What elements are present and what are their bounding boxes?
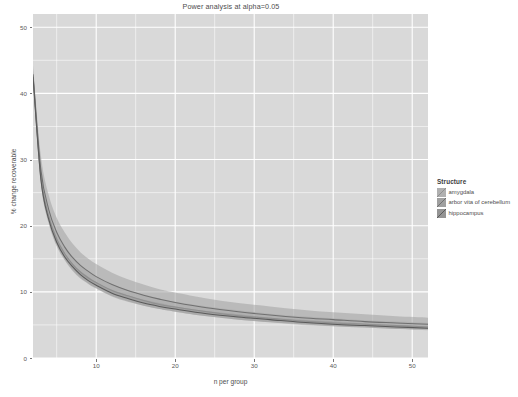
plot-panel <box>33 14 428 358</box>
legend: Structure amygdalaarbor vita of cerebell… <box>437 178 515 219</box>
ribbon-amygdala <box>33 70 428 331</box>
x-tick-label: 30 <box>244 362 264 369</box>
y-tick-mark <box>30 160 33 161</box>
ribbon-hippocampus <box>33 73 428 330</box>
x-tick-label: 10 <box>86 362 106 369</box>
legend-item-label: amygdala <box>449 189 475 196</box>
x-tick-mark <box>96 359 97 362</box>
line-hippocampus <box>33 77 428 328</box>
legend-key-swatch <box>437 209 446 218</box>
legend-item[interactable]: amygdala <box>437 187 515 197</box>
x-tick-mark <box>412 359 413 362</box>
y-tick-label: 50 <box>5 24 27 31</box>
x-tick-label: 20 <box>165 362 185 369</box>
legend-key-swatch <box>437 188 446 197</box>
plot-area <box>33 14 428 358</box>
chart-figure: Power analysis at alpha=0.05 01020304050… <box>0 0 518 397</box>
x-tick-label: 40 <box>323 362 343 369</box>
line-arbor-vita-of-cerebellum <box>33 74 428 324</box>
y-axis-title: % change recoverable <box>10 147 17 217</box>
confidence-ribbons <box>33 66 428 331</box>
y-tick-label: 20 <box>5 222 27 229</box>
x-tick-mark <box>333 359 334 362</box>
legend-key-swatch <box>437 198 446 207</box>
legend-title: Structure <box>437 178 515 185</box>
x-tick-label: 50 <box>402 362 422 369</box>
series-lines <box>33 74 428 328</box>
y-tick-mark <box>30 358 33 359</box>
legend-item[interactable]: hippocampus <box>437 208 515 218</box>
y-tick-mark <box>30 93 33 94</box>
legend-item-label: hippocampus <box>449 210 484 217</box>
y-tick-label: 10 <box>5 288 27 295</box>
x-tick-mark <box>254 359 255 362</box>
x-tick-mark <box>175 359 176 362</box>
legend-items: amygdalaarbor vita of cerebellumhippocam… <box>437 187 515 218</box>
y-tick-mark <box>30 292 33 293</box>
line-amygdala <box>33 75 428 327</box>
y-tick-label: 40 <box>5 90 27 97</box>
chart-title: Power analysis at alpha=0.05 <box>33 2 429 11</box>
y-tick-mark <box>30 27 33 28</box>
ribbon-arbor-vita-of-cerebellum <box>33 66 428 329</box>
legend-item-label: arbor vita of cerebellum <box>449 199 511 206</box>
x-axis-title: n per group <box>33 378 428 385</box>
y-tick-mark <box>30 226 33 227</box>
legend-item[interactable]: arbor vita of cerebellum <box>437 198 515 208</box>
y-tick-label: 0 <box>5 355 27 362</box>
